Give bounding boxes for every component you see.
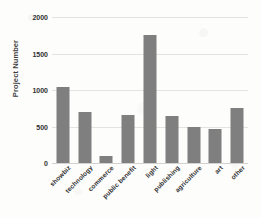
bar[interactable] [78, 112, 91, 163]
bar[interactable] [143, 35, 156, 163]
bar-slot [117, 17, 139, 163]
bar[interactable] [165, 116, 178, 163]
bar-slot [74, 17, 96, 163]
bar-slot [204, 17, 226, 163]
x-axis-tick-label: light [144, 164, 159, 179]
bar-slot [226, 17, 248, 163]
bar-slot [96, 17, 118, 163]
y-axis-tick-label: 1000 [32, 87, 48, 94]
bar-slot [183, 17, 205, 163]
bar[interactable] [56, 87, 69, 163]
bar-chart: Project Number 0500100015002000 showbizt… [0, 0, 261, 218]
bar[interactable] [122, 115, 135, 163]
x-axis-tick-label: art [213, 164, 224, 175]
bar[interactable] [100, 156, 113, 163]
y-axis-tick-label: 1500 [32, 50, 48, 57]
y-axis-tick-label: 0 [44, 160, 48, 167]
bar[interactable] [231, 108, 244, 163]
bar-slot [161, 17, 183, 163]
bar[interactable] [187, 127, 200, 164]
bars [52, 17, 248, 163]
y-axis-title: Project Number [11, 26, 20, 112]
bar-slot [52, 17, 74, 163]
y-axis-tick-label: 2000 [32, 14, 48, 21]
bar[interactable] [209, 129, 222, 163]
x-axis-ticks: showbiztechnologycommercepublic benefitl… [52, 164, 248, 218]
x-axis-tick-label: other [229, 164, 246, 181]
y-axis-tick-label: 500 [36, 123, 48, 130]
plot-area: 0500100015002000 [52, 17, 248, 163]
bar-slot [139, 17, 161, 163]
